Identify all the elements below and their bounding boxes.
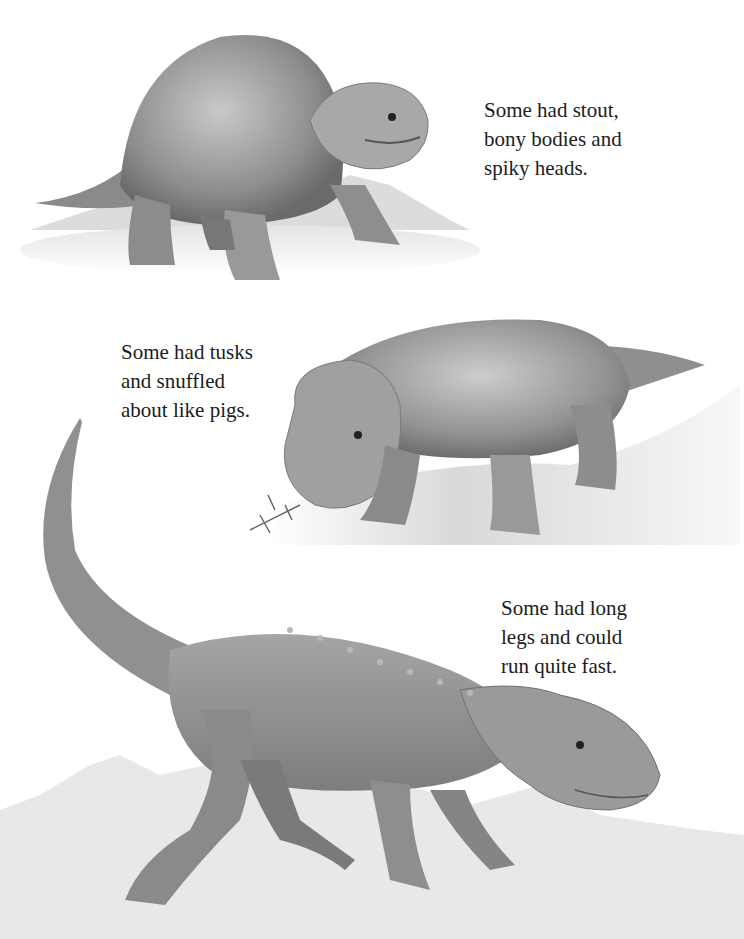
long-legged-dinosaur-illustration	[0, 410, 744, 939]
caption-long-legs: Some had long legs and could run quite f…	[501, 594, 627, 681]
book-page: Some had stout, bony bodies and spiky he…	[0, 0, 744, 939]
caption-line: Some had stout,	[484, 96, 622, 125]
caption-stout-bodies: Some had stout, bony bodies and spiky he…	[484, 96, 622, 183]
caption-line: and snuffled	[121, 367, 253, 396]
caption-line: bony bodies and	[484, 125, 622, 154]
caption-line: Some had long	[501, 594, 627, 623]
caption-line: Some had tusks	[121, 338, 253, 367]
stout-dinosaur-illustration	[10, 25, 480, 295]
caption-line: legs and could	[501, 623, 627, 652]
caption-line: spiky heads.	[484, 154, 622, 183]
caption-line: run quite fast.	[501, 652, 627, 681]
